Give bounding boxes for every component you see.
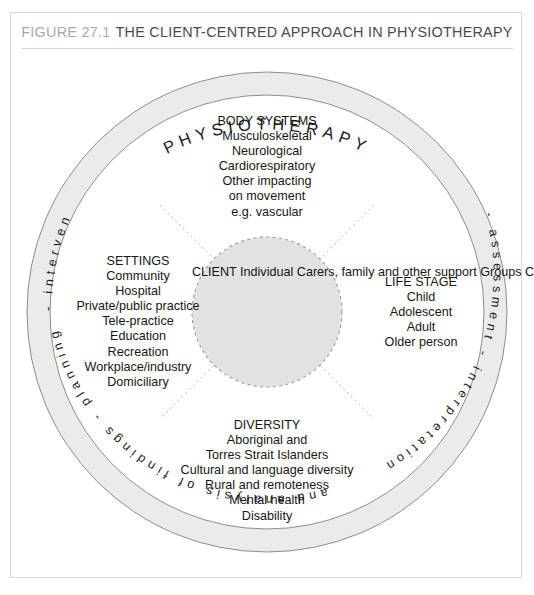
quadrant-item: Hospital xyxy=(45,284,231,299)
quadrant-item: Adolescent xyxy=(341,305,501,320)
quadrant-item: Aboriginal and xyxy=(137,433,397,448)
quadrant-item: Neurological xyxy=(137,144,397,159)
quadrant-item: Child xyxy=(341,290,501,305)
client-core-text: CLIENT Individual Carers, family and oth… xyxy=(192,265,344,280)
quadrant-item: Other impacting xyxy=(137,174,397,189)
quadrant-item: Rural and remoteness xyxy=(137,478,397,493)
quadrant-item: Torres Strait Islanders xyxy=(137,448,397,463)
quadrant-item: Education xyxy=(45,329,231,344)
quadrant-life-stage: LIFE STAGE Child Adolescent Adult Older … xyxy=(341,275,501,350)
quadrant-item: Adult xyxy=(341,320,501,335)
quadrant-item: Older person xyxy=(341,335,501,350)
quadrant-item: Domiciliary xyxy=(45,375,231,390)
center-item: Individual xyxy=(240,265,293,279)
center-item: Communities xyxy=(525,265,534,279)
center-item: other support xyxy=(402,265,476,279)
quadrant-diversity: DIVERSITY Aboriginal and Torres Strait I… xyxy=(137,418,397,524)
quadrant-item: Disability xyxy=(137,509,397,524)
quadrant-item: Cultural and language diversity xyxy=(137,463,397,478)
quadrant-item: Tele-practice xyxy=(45,314,231,329)
client-centred-approach-diagram: PHYSIOTHERAPY - assessment - interpretat… xyxy=(11,13,523,579)
quadrant-item: Mental health xyxy=(137,493,397,508)
quadrant-item: Recreation xyxy=(45,345,231,360)
quadrant-item: Musculoskeletal xyxy=(137,129,397,144)
quadrant-heading: BODY SYSTEMS xyxy=(137,114,397,129)
center-item: Groups xyxy=(480,265,521,279)
quadrant-item: Cardiorespiratory xyxy=(137,159,397,174)
quadrant-item: on movement xyxy=(137,189,397,204)
center-item: Carers, family and xyxy=(297,265,399,279)
quadrant-item: Workplace/industry xyxy=(45,360,231,375)
quadrant-item: Private/public practice xyxy=(45,299,231,314)
center-heading: CLIENT xyxy=(192,265,237,279)
quadrant-item: e.g. vascular xyxy=(137,205,397,220)
quadrant-body-systems: BODY SYSTEMS Musculoskeletal Neurologica… xyxy=(137,114,397,220)
quadrant-heading: DIVERSITY xyxy=(137,418,397,433)
figure-frame: FIGURE 27.1THE CLIENT-CENTRED APPROACH I… xyxy=(10,12,522,578)
